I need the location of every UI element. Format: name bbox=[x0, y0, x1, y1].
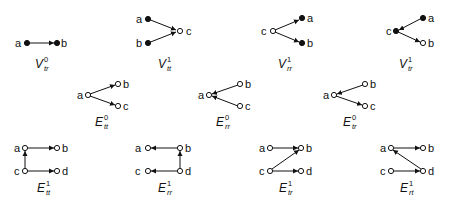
node-label-a: a bbox=[135, 142, 142, 154]
svg-text:tr: tr bbox=[288, 188, 293, 197]
svg-text:V: V bbox=[399, 57, 408, 71]
svg-text:E: E bbox=[279, 181, 288, 195]
motif-v-tr-1: c a b V 1 tr bbox=[386, 12, 435, 73]
svg-text:rt: rt bbox=[409, 188, 414, 197]
node-label-d: d bbox=[62, 165, 68, 177]
caption: E 1 rr bbox=[158, 179, 172, 197]
svg-text:tt: tt bbox=[46, 188, 51, 197]
svg-text:tr: tr bbox=[352, 122, 357, 131]
svg-text:E: E bbox=[158, 181, 167, 195]
svg-text:E: E bbox=[343, 115, 352, 129]
node-label-d: d bbox=[306, 165, 312, 177]
node-label-b: b bbox=[123, 78, 129, 90]
node-label-b: b bbox=[306, 142, 312, 154]
svg-text:V: V bbox=[158, 57, 167, 71]
node-label-a: a bbox=[14, 142, 21, 154]
motif-e-rr-0: a b c E 0 rr bbox=[198, 78, 251, 131]
svg-text:1: 1 bbox=[409, 179, 413, 188]
caption: V 1 tt bbox=[158, 55, 172, 73]
svg-text:E: E bbox=[95, 115, 104, 129]
caption: E 0 tr bbox=[343, 113, 357, 131]
svg-text:1: 1 bbox=[287, 55, 291, 64]
node-label-b: b bbox=[185, 142, 191, 154]
svg-text:tr: tr bbox=[44, 64, 49, 73]
node-label-b: b bbox=[428, 37, 434, 49]
svg-text:0: 0 bbox=[44, 55, 48, 64]
node-label-c: c bbox=[386, 25, 392, 37]
svg-text:tt: tt bbox=[167, 64, 172, 73]
node-label-a: a bbox=[15, 37, 22, 49]
svg-text:V: V bbox=[278, 57, 287, 71]
node-label-b: b bbox=[62, 142, 68, 154]
caption: E 1 tr bbox=[279, 179, 293, 197]
node-label-b: b bbox=[61, 37, 67, 49]
svg-text:rr: rr bbox=[287, 64, 292, 73]
node-label-a: a bbox=[259, 142, 266, 154]
node-label-a: a bbox=[198, 89, 205, 101]
node-label-d: d bbox=[185, 165, 191, 177]
caption: E 1 rt bbox=[400, 179, 414, 197]
node-label-a: a bbox=[380, 142, 387, 154]
node-label-b: b bbox=[428, 142, 434, 154]
svg-text:E: E bbox=[400, 181, 409, 195]
node-label-c: c bbox=[123, 100, 129, 112]
svg-text:1: 1 bbox=[288, 179, 292, 188]
svg-text:rr: rr bbox=[225, 122, 230, 131]
node-label-b: b bbox=[245, 78, 251, 90]
motif-e-rr-1: a c b d E 1 rr bbox=[135, 142, 191, 197]
svg-text:tr: tr bbox=[408, 64, 413, 73]
caption: V 0 tr bbox=[35, 55, 49, 73]
node-label-a: a bbox=[136, 13, 143, 25]
motif-e-tt-1: a c b d E 1 tt bbox=[14, 142, 68, 197]
node-label-b: b bbox=[307, 37, 313, 49]
svg-text:1: 1 bbox=[167, 179, 171, 188]
node-b bbox=[54, 40, 59, 45]
svg-text:E: E bbox=[216, 115, 225, 129]
motif-e-tr-0: a b c E 0 tr bbox=[323, 78, 376, 131]
motif-e-tt-0: a b c E 0 tt bbox=[77, 78, 129, 131]
svg-text:E: E bbox=[37, 181, 46, 195]
svg-text:1: 1 bbox=[408, 55, 412, 64]
node-label-c: c bbox=[261, 25, 267, 37]
node-label-b: b bbox=[370, 78, 376, 90]
caption: V 1 rr bbox=[278, 55, 292, 73]
svg-text:1: 1 bbox=[46, 179, 50, 188]
svg-text:V: V bbox=[35, 57, 44, 71]
motif-v-tr-0: a b V 0 tr bbox=[15, 37, 67, 73]
graph-motif-diagram: a b V 0 tr a b c V 1 tt c a b bbox=[0, 0, 450, 203]
node-label-c: c bbox=[380, 165, 386, 177]
caption: E 0 rr bbox=[216, 113, 230, 131]
motif-v-tt-1: a b c V 1 tt bbox=[136, 13, 192, 73]
node-label-a: a bbox=[323, 89, 330, 101]
svg-text:rr: rr bbox=[167, 188, 172, 197]
node-label-d: d bbox=[428, 165, 434, 177]
motif-e-rt-1: a c b d E 1 rt bbox=[380, 142, 434, 197]
node-label-c: c bbox=[370, 100, 376, 112]
svg-text:tt: tt bbox=[104, 122, 109, 131]
node-label-a: a bbox=[428, 12, 435, 24]
caption: E 0 tt bbox=[95, 113, 109, 131]
svg-text:0: 0 bbox=[225, 113, 229, 122]
node-label-c: c bbox=[135, 165, 141, 177]
node-label-c: c bbox=[259, 165, 265, 177]
node-label-c: c bbox=[14, 165, 20, 177]
node-label-a: a bbox=[307, 12, 314, 24]
motif-v-rr-1: c a b V 1 rr bbox=[261, 12, 314, 73]
node-label-b: b bbox=[136, 37, 142, 49]
node-label-a: a bbox=[77, 89, 84, 101]
svg-text:0: 0 bbox=[104, 113, 108, 122]
node-label-c: c bbox=[245, 100, 251, 112]
svg-text:1: 1 bbox=[167, 55, 171, 64]
motif-e-tr-1: a c b d E 1 tr bbox=[259, 142, 312, 197]
svg-text:0: 0 bbox=[352, 113, 356, 122]
caption: E 1 tt bbox=[37, 179, 51, 197]
node-label-c: c bbox=[186, 25, 192, 37]
caption: V 1 tr bbox=[399, 55, 413, 73]
